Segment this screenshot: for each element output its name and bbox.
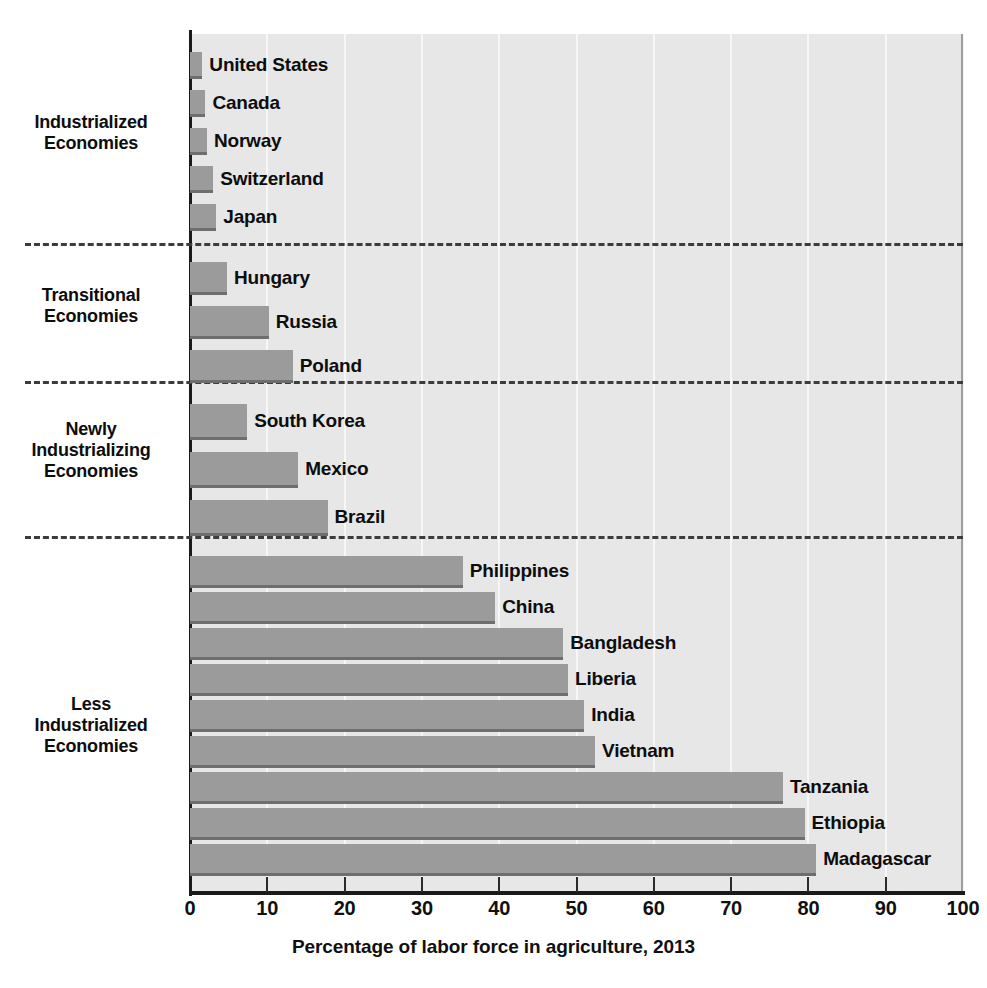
gridline-90 <box>885 34 887 891</box>
x-tick-70 <box>730 877 732 892</box>
group-label-less-industrialized-economies: LessIndustrializedEconomies <box>0 694 182 758</box>
gridline-60 <box>653 34 655 891</box>
bar-madagascar[interactable] <box>190 844 816 876</box>
x-tick-label-40: 40 <box>488 897 510 920</box>
bar-label-switzerland: Switzerland <box>220 168 323 190</box>
bar-ethiopia[interactable] <box>190 808 805 840</box>
group-separator-3 <box>25 536 963 539</box>
bar-south-korea[interactable] <box>190 404 247 440</box>
group-label-line: Industrialized <box>0 715 182 736</box>
x-tick-label-80: 80 <box>797 897 819 920</box>
gridline-80 <box>807 34 809 891</box>
group-separator-2 <box>25 381 963 384</box>
x-tick-label-50: 50 <box>566 897 588 920</box>
bar-label-japan: Japan <box>223 206 277 228</box>
group-separator-1 <box>25 243 963 246</box>
bar-china[interactable] <box>190 592 495 624</box>
group-label-line: Transitional <box>0 285 182 306</box>
group-label-line: Industrialized <box>0 112 182 133</box>
group-label-line: Less <box>0 694 182 715</box>
group-label-line: Economies <box>0 133 182 154</box>
x-tick-label-0: 0 <box>185 897 196 920</box>
plot-right-border <box>961 34 963 892</box>
bar-label-norway: Norway <box>214 130 281 152</box>
bar-label-philippines: Philippines <box>470 560 569 582</box>
bar-india[interactable] <box>190 700 584 732</box>
bar-mexico[interactable] <box>190 452 298 488</box>
bar-brazil[interactable] <box>190 500 328 536</box>
group-label-industrialized-economies: IndustrializedEconomies <box>0 112 182 154</box>
bar-poland[interactable] <box>190 350 293 383</box>
group-label-transitional-economies: TransitionalEconomies <box>0 285 182 327</box>
bar-chart-figure: 0102030405060708090100 IndustrializedEco… <box>0 0 987 988</box>
x-axis-title: Percentage of labor force in agriculture… <box>0 936 987 958</box>
x-tick-20 <box>344 877 346 892</box>
bar-hungary[interactable] <box>190 262 227 295</box>
x-tick-label-60: 60 <box>643 897 665 920</box>
bar-label-hungary: Hungary <box>234 267 310 289</box>
bar-label-tanzania: Tanzania <box>790 776 868 798</box>
bar-label-madagascar: Madagascar <box>823 848 931 870</box>
x-tick-label-90: 90 <box>875 897 897 920</box>
bar-vietnam[interactable] <box>190 736 595 768</box>
bar-label-brazil: Brazil <box>335 506 386 528</box>
bar-label-liberia: Liberia <box>575 668 636 690</box>
bar-bangladesh[interactable] <box>190 628 563 660</box>
bar-label-russia: Russia <box>276 311 337 333</box>
bar-label-canada: Canada <box>212 92 279 114</box>
x-tick-label-30: 30 <box>411 897 433 920</box>
bar-label-united-states: United States <box>209 54 328 76</box>
x-tick-90 <box>885 877 887 892</box>
x-tick-50 <box>576 877 578 892</box>
bar-tanzania[interactable] <box>190 772 783 804</box>
gridline-70 <box>730 34 732 891</box>
bar-russia[interactable] <box>190 306 269 339</box>
x-tick-40 <box>498 877 500 892</box>
bar-label-bangladesh: Bangladesh <box>570 632 676 654</box>
group-label-line: Economies <box>0 461 182 482</box>
x-tick-label-70: 70 <box>720 897 742 920</box>
group-label-line: Economies <box>0 736 182 757</box>
bar-label-ethiopia: Ethiopia <box>812 812 885 834</box>
bar-united-states[interactable] <box>190 52 202 79</box>
x-tick-label-20: 20 <box>334 897 356 920</box>
group-label-line: Economies <box>0 306 182 327</box>
group-label-line: Industrializing <box>0 440 182 461</box>
x-tick-label-100: 100 <box>947 897 980 920</box>
bar-switzerland[interactable] <box>190 166 213 193</box>
x-tick-80 <box>807 877 809 892</box>
x-tick-60 <box>653 877 655 892</box>
bar-label-mexico: Mexico <box>305 458 368 480</box>
bar-label-south-korea: South Korea <box>254 410 365 432</box>
bar-liberia[interactable] <box>190 664 568 696</box>
group-label-newly-industrializing-economies: NewlyIndustrializingEconomies <box>0 419 182 483</box>
bar-japan[interactable] <box>190 204 216 231</box>
x-tick-label-10: 10 <box>256 897 278 920</box>
group-label-line: Newly <box>0 419 182 440</box>
bar-norway[interactable] <box>190 128 207 155</box>
bar-label-vietnam: Vietnam <box>602 740 674 762</box>
x-tick-10 <box>266 877 268 892</box>
x-tick-30 <box>421 877 423 892</box>
bar-label-india: India <box>591 704 634 726</box>
bar-canada[interactable] <box>190 90 205 117</box>
bar-label-poland: Poland <box>300 355 362 377</box>
bar-label-china: China <box>502 596 554 618</box>
bar-philippines[interactable] <box>190 556 463 588</box>
